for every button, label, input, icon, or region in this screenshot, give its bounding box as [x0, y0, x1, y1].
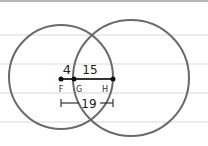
label-point-f: F [59, 85, 64, 94]
label-fg-length: 4 [63, 62, 71, 77]
label-gh-length: 15 [82, 63, 97, 77]
point-g [72, 77, 77, 82]
top-band [0, 0, 208, 2]
label-fh-length: 19 [81, 97, 96, 111]
diagram-canvas: 4 15 F G H 19 [0, 0, 208, 146]
label-point-g: G [76, 85, 82, 94]
point-h [111, 77, 116, 82]
label-point-h: H [102, 85, 108, 94]
point-f [59, 77, 64, 82]
